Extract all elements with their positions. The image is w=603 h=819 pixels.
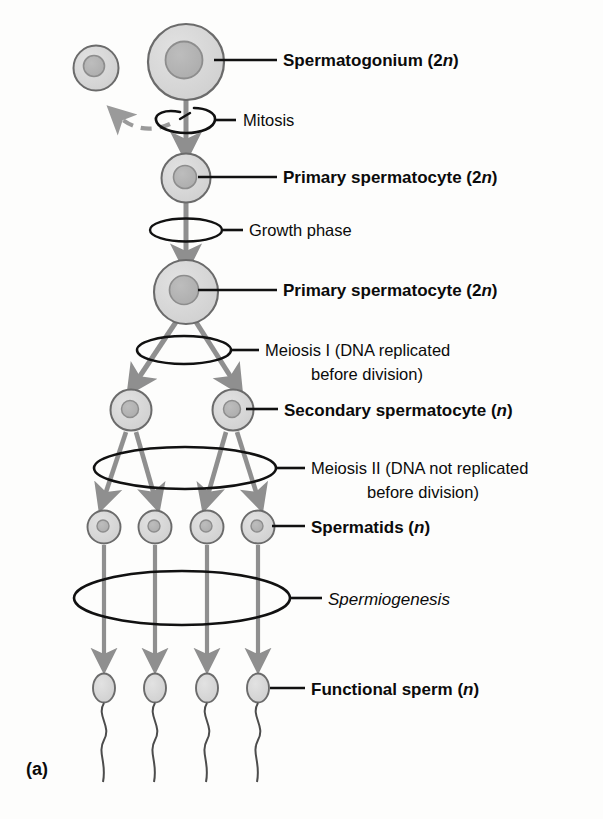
label-secondary-spermatocyte: Secondary spermatocyte (n) [284,401,513,420]
cell-spermatid-3 [191,511,224,544]
spermatogenesis-figure: Spermatogonium (2n) Mitosis Primary sper… [0,0,603,819]
nucleus [174,166,197,189]
flagellum [255,703,260,782]
label-growth-phase: Growth phase [249,221,352,239]
cell-spermatid-1 [88,511,121,544]
cell-spermatogonium [148,24,224,100]
label-meiosis-ii-line1: Meiosis II (DNA not replicated [311,459,528,477]
cell-spermatid-2 [139,511,172,544]
nucleus [166,42,203,79]
label-meiosis-i-line2: before division) [311,365,423,383]
cell-spermatogonium-stem [74,46,119,91]
cell-secondary-spermatocyte-left [111,390,152,431]
label-primary-spermatocyte-early: Primary spermatocyte (2n) [283,168,498,187]
arrow-meiosis-ii-d [237,432,258,498]
nucleus [170,276,199,305]
arrow-meiosis-i-right [196,322,234,382]
nucleus [251,520,263,532]
spermatogenesis-diagram: Spermatogonium (2n) Mitosis Primary sper… [0,0,603,819]
label-functional-sperm: Functional sperm (n) [311,680,479,699]
nucleus [122,401,139,418]
label-spermatids: Spermatids (n) [311,518,430,537]
ellipse-meiosis-i [137,336,231,364]
cell-primary-spermatocyte-grown [154,260,218,324]
flagellum [204,703,209,782]
label-spermiogenesis: Spermiogenesis [328,590,450,609]
nucleus [148,520,160,532]
cell-spermatid-4 [242,511,275,544]
flagellum [152,703,157,782]
nucleus [200,520,212,532]
label-meiosis-ii-line2: before division) [367,483,479,501]
nucleus [97,520,109,532]
label-primary-spermatocyte-grown: Primary spermatocyte (2n) [283,281,498,300]
cell-functional-sperm-1 [93,674,115,783]
label-spermatogonium: Spermatogonium (2n) [283,51,459,70]
nucleus [224,401,241,418]
nucleus [84,56,105,77]
arrow-meiosis-i-left [136,322,176,382]
panel-letter: (a) [26,759,48,779]
cell-functional-sperm-4 [247,674,269,783]
cell-functional-sperm-2 [144,674,166,783]
cell-functional-sperm-3 [196,674,218,783]
arrow-meiosis-ii-a [104,432,126,498]
flagellum [101,703,106,782]
label-mitosis: Mitosis [243,111,294,129]
label-meiosis-i-line1: Meiosis I (DNA replicated [265,341,450,359]
